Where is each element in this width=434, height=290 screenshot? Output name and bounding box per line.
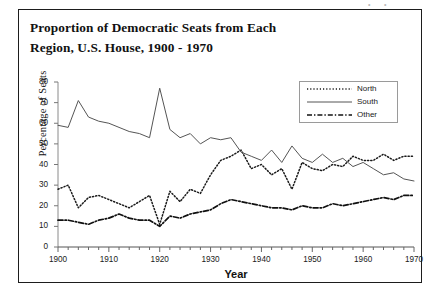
chart-svg bbox=[0, 0, 434, 290]
legend-swatch-other-icon bbox=[304, 110, 354, 120]
y-tick-label: 60 bbox=[32, 118, 48, 127]
x-tick-label: 1930 bbox=[191, 255, 231, 264]
y-tick-label: 50 bbox=[32, 139, 48, 148]
legend-item-south[interactable]: South bbox=[300, 95, 397, 108]
y-tick-label: 30 bbox=[32, 180, 48, 189]
plot-area-wrapper: Percentage of Seats Year 010203040506070… bbox=[0, 0, 434, 290]
y-tick-label: 0 bbox=[32, 242, 48, 251]
legend-item-other[interactable]: Other bbox=[300, 108, 397, 121]
legend-swatch-north-icon bbox=[304, 84, 354, 94]
x-axis-title: Year bbox=[58, 268, 414, 280]
x-tick-label: 1960 bbox=[343, 255, 383, 264]
legend-swatch-south-icon bbox=[304, 97, 354, 107]
x-tick-label: 1900 bbox=[38, 255, 78, 264]
y-tick-label: 40 bbox=[32, 160, 48, 169]
y-tick-label: 70 bbox=[32, 98, 48, 107]
x-tick-label: 1910 bbox=[89, 255, 129, 264]
legend-label: North bbox=[354, 84, 377, 93]
legend-item-north[interactable]: North bbox=[300, 82, 397, 95]
y-axis-title: Percentage of Seats bbox=[37, 54, 48, 174]
y-tick-marks bbox=[54, 82, 58, 247]
y-tick-label: 10 bbox=[32, 221, 48, 230]
legend-label: Other bbox=[354, 110, 377, 119]
x-tick-label: 1940 bbox=[241, 255, 281, 264]
x-tick-label: 1950 bbox=[292, 255, 332, 264]
y-tick-label: 20 bbox=[32, 201, 48, 210]
x-tick-label: 1970 bbox=[394, 255, 434, 264]
legend-label: South bbox=[354, 97, 378, 106]
chart-legend: NorthSouthOther bbox=[299, 81, 398, 123]
series-line-north bbox=[58, 150, 414, 224]
y-tick-label: 80 bbox=[32, 77, 48, 86]
x-tick-label: 1920 bbox=[140, 255, 180, 264]
chart-figure: • • Proportion of Democratic Seats from … bbox=[0, 0, 434, 290]
x-tick-marks bbox=[58, 247, 414, 252]
